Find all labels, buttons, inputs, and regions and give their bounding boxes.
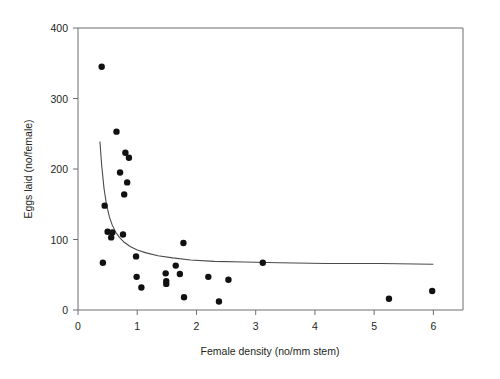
x-axis-title: Female density (no/mm stem) <box>201 345 340 357</box>
data-point <box>101 202 107 208</box>
data-point <box>138 284 144 290</box>
data-point <box>180 240 186 246</box>
data-point <box>163 281 169 287</box>
data-point <box>117 169 123 175</box>
x-tick-label: 3 <box>253 320 259 332</box>
x-tick-label: 1 <box>134 320 140 332</box>
data-point <box>386 296 392 302</box>
data-point <box>177 271 183 277</box>
data-point <box>260 260 266 266</box>
scatter-plot-figure: 0123456 0100200300400 Female density (no… <box>0 0 500 379</box>
data-point <box>133 274 139 280</box>
data-point <box>121 191 127 197</box>
x-tick-label: 2 <box>194 320 200 332</box>
y-tick-label: 100 <box>50 234 68 246</box>
data-point <box>216 298 222 304</box>
data-point <box>181 294 187 300</box>
data-point <box>124 179 130 185</box>
data-point <box>113 128 119 134</box>
data-point <box>225 276 231 282</box>
data-point <box>133 253 139 259</box>
y-axis-title: Eggs laid (no/female) <box>22 119 34 218</box>
x-tick-label: 4 <box>312 320 318 332</box>
y-tick-label: 300 <box>50 93 68 105</box>
x-tick-label: 5 <box>371 320 377 332</box>
data-point <box>162 270 168 276</box>
y-tick-label: 0 <box>62 304 68 316</box>
x-tick-label: 6 <box>430 320 436 332</box>
y-tick-label: 400 <box>50 22 68 34</box>
data-point <box>173 262 179 268</box>
x-tick-label: 0 <box>75 320 81 332</box>
data-point <box>108 234 114 240</box>
data-point <box>100 260 106 266</box>
y-tick-label: 200 <box>50 163 68 175</box>
data-point <box>126 155 132 161</box>
data-point <box>429 288 435 294</box>
data-point <box>98 64 104 70</box>
data-point <box>205 274 211 280</box>
data-point <box>120 231 126 237</box>
